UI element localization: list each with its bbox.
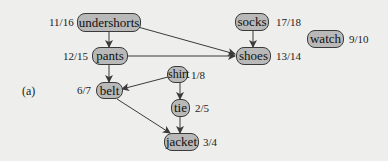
edge-belt-jacket bbox=[117, 99, 170, 133]
node-jacket: jacket bbox=[164, 133, 199, 151]
node-undershorts: undershorts bbox=[77, 13, 141, 32]
node-watch: watch bbox=[307, 30, 344, 48]
node-label: jacket bbox=[166, 134, 197, 149]
node-label: pants bbox=[96, 48, 123, 63]
node-shirt: shirt bbox=[167, 66, 188, 83]
time-tie: 2/5 bbox=[195, 102, 209, 115]
node-label: belt bbox=[100, 83, 120, 98]
time-watch: 9/10 bbox=[349, 33, 369, 46]
time-shirt: 1/8 bbox=[191, 69, 205, 82]
edge-shirt-belt bbox=[122, 77, 168, 89]
time-shoes: 13/14 bbox=[276, 50, 301, 63]
edge-undershorts-shoes bbox=[138, 27, 235, 54]
node-label: watch bbox=[310, 31, 341, 46]
node-pants: pants bbox=[92, 47, 128, 65]
node-socks: socks bbox=[235, 13, 269, 31]
time-pants: 12/15 bbox=[63, 50, 88, 63]
time-socks: 17/18 bbox=[276, 16, 301, 29]
node-shoes: shoes bbox=[236, 47, 271, 65]
node-tie: tie bbox=[171, 99, 190, 117]
figure-caption: (a) bbox=[22, 84, 35, 99]
node-label: tie bbox=[174, 100, 187, 115]
node-label: shirt bbox=[168, 67, 189, 81]
node-label: socks bbox=[238, 14, 267, 29]
time-undershorts: 11/16 bbox=[49, 16, 74, 29]
time-jacket: 3/4 bbox=[203, 136, 217, 149]
dfs-clothing-diagram: undershorts 11/16 pants 12/15 belt 6/7 s… bbox=[0, 0, 388, 161]
node-label: undershorts bbox=[79, 15, 140, 30]
node-belt: belt bbox=[96, 82, 123, 99]
time-belt: 6/7 bbox=[77, 84, 91, 97]
node-label: shoes bbox=[239, 48, 268, 63]
